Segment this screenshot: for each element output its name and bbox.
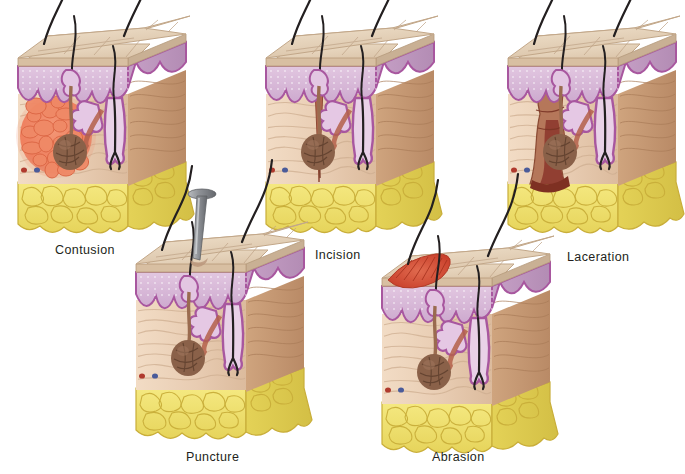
wound-panel-abrasion bbox=[374, 228, 569, 474]
skin-block-abrasion bbox=[374, 228, 569, 474]
wound-panel-puncture bbox=[128, 214, 323, 474]
skin-block-puncture bbox=[128, 214, 323, 474]
wound-types-figure: Contusion bbox=[0, 0, 685, 474]
caption-laceration: Laceration bbox=[567, 250, 629, 264]
caption-abrasion: Abrasion bbox=[432, 450, 485, 464]
caption-puncture: Puncture bbox=[186, 450, 239, 464]
caption-contusion: Contusion bbox=[55, 243, 115, 257]
